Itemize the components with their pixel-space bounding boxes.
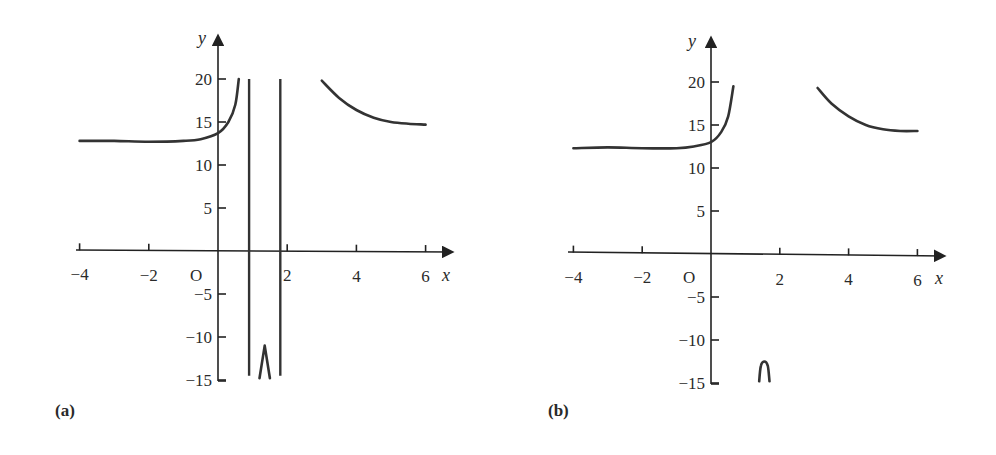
x-axis-label-b: x: [934, 268, 943, 288]
series-middle-spike: [260, 346, 270, 379]
curves-b: [573, 86, 917, 381]
y-tick-label: −5: [687, 288, 705, 307]
curves-a: [80, 79, 426, 378]
x-axis-a: [76, 250, 452, 252]
y-tick-label: 15: [195, 113, 212, 132]
series-right-branch: [818, 88, 918, 131]
y-tick-label: 15: [688, 116, 705, 135]
y-axis-label-b: y: [686, 31, 696, 51]
y-tick-label: −15: [678, 374, 705, 393]
ticks-b: [573, 82, 917, 383]
series-middle-cap: [759, 362, 769, 382]
y-tick-label: 10: [688, 159, 705, 178]
series-right-branch: [322, 81, 426, 125]
y-tick-label: −10: [678, 331, 705, 350]
y-tick-label: −10: [185, 328, 212, 347]
y-tick-label: −15: [185, 371, 212, 390]
x-tick-label: −4: [71, 265, 90, 284]
chart-panel-b: −4−22462015105−5−10−15 y x O (b): [548, 31, 944, 420]
chart-panel-a: −4−22462015105−5−10−15 y x O (a): [55, 28, 452, 420]
y-tick-label: 20: [688, 73, 705, 92]
y-tick-label: 10: [195, 156, 212, 175]
x-axis-label-a: x: [441, 265, 450, 285]
x-tick-label: 4: [844, 270, 853, 289]
x-tick-label: −4: [564, 268, 583, 287]
y-axis-label-a: y: [196, 28, 206, 48]
x-tick-label: −2: [140, 266, 158, 285]
x-tick-label: 4: [352, 267, 361, 286]
origin-label-b: O: [683, 268, 695, 287]
series-left-branch: [80, 79, 239, 142]
y-tick-label: 5: [697, 202, 706, 221]
x-tick-label: 6: [913, 271, 922, 290]
tick-labels-b: −4−22462015105−5−10−15: [564, 73, 921, 393]
y-tick-label: 20: [195, 70, 212, 89]
panel-label-b: (b): [548, 401, 569, 420]
ticks-a: [80, 79, 426, 380]
x-tick-label: 2: [776, 270, 785, 289]
origin-label-a: O: [190, 266, 202, 285]
panel-label-a: (a): [55, 401, 75, 420]
figure: −4−22462015105−5−10−15 y x O (a) −4−2246…: [0, 0, 996, 455]
x-axis-b: [568, 252, 944, 256]
y-tick-label: −5: [194, 285, 212, 304]
y-tick-label: 5: [204, 199, 213, 218]
x-tick-label: 2: [283, 266, 292, 285]
x-tick-label: −2: [633, 268, 651, 287]
series-left-branch: [573, 86, 733, 148]
x-tick-label: 6: [421, 267, 430, 286]
